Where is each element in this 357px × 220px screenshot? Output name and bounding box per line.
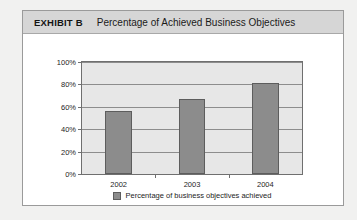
y-axis-tick bbox=[78, 62, 82, 63]
gridline bbox=[82, 62, 302, 63]
y-axis-label: 20% bbox=[61, 147, 76, 156]
x-axis-label-2003: 2003 bbox=[184, 180, 201, 189]
y-axis-label: 60% bbox=[61, 102, 76, 111]
x-axis-tick bbox=[229, 174, 230, 178]
x-axis-label-2002: 2002 bbox=[110, 180, 127, 189]
x-axis-label-2004: 2004 bbox=[257, 180, 274, 189]
y-axis-tick bbox=[78, 84, 82, 85]
y-axis-tick bbox=[78, 174, 82, 175]
bar-2002 bbox=[105, 111, 131, 174]
bar-chart: 0%20%40%60%80%100%200220032004 Percentag… bbox=[23, 34, 343, 205]
x-axis-tick bbox=[155, 174, 156, 178]
y-axis-tick bbox=[78, 107, 82, 108]
y-axis-label: 40% bbox=[61, 125, 76, 134]
plot-area: 0%20%40%60%80%100%200220032004 bbox=[81, 61, 303, 175]
y-axis-label: 0% bbox=[65, 170, 76, 179]
legend-swatch-icon bbox=[113, 192, 121, 200]
legend-label: Percentage of business objectives achiev… bbox=[126, 191, 272, 200]
exhibit-header: EXHIBIT B Percentage of Achieved Busines… bbox=[23, 11, 343, 34]
y-axis-tick bbox=[78, 152, 82, 153]
bar-2003 bbox=[179, 99, 205, 174]
y-axis-tick bbox=[78, 129, 82, 130]
y-axis-label: 100% bbox=[57, 58, 76, 67]
bar-2004 bbox=[252, 83, 278, 174]
exhibit-title: Percentage of Achieved Business Objectiv… bbox=[97, 17, 295, 28]
exhibit-label: EXHIBIT B bbox=[34, 17, 83, 28]
exhibit-panel: EXHIBIT B Percentage of Achieved Busines… bbox=[22, 10, 344, 206]
y-axis-label: 80% bbox=[61, 80, 76, 89]
chart-legend: Percentage of business objectives achiev… bbox=[81, 191, 303, 200]
exhibit-page: EXHIBIT B Percentage of Achieved Busines… bbox=[0, 0, 357, 220]
